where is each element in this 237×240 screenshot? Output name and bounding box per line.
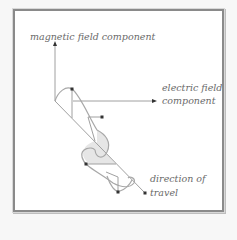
vector-3-head-icon xyxy=(85,163,88,166)
vector-1-head-icon xyxy=(71,88,74,91)
direction-of-travel-label-line2: travel xyxy=(150,186,178,199)
vector-4b xyxy=(106,172,118,177)
electric-field-label-line1: electric field xyxy=(162,81,222,94)
travel-arrowhead-icon xyxy=(144,192,147,195)
vector-4-head-icon xyxy=(117,191,120,194)
travel-axis xyxy=(55,101,145,193)
magnetic-field-label: magnetic field component xyxy=(30,30,155,43)
electric-field-label-line2: component xyxy=(162,94,216,107)
wave-curve xyxy=(55,88,134,187)
vector-2-head-icon xyxy=(101,116,104,119)
wave-curve-lower xyxy=(107,176,132,191)
electric-arrowhead-icon xyxy=(152,99,157,103)
direction-of-travel-label-line1: direction of xyxy=(150,172,206,185)
